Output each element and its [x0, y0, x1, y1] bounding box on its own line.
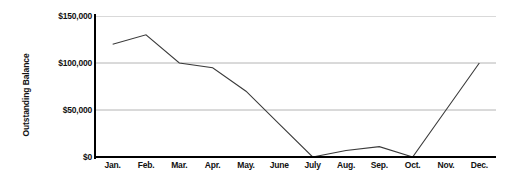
x-tick-label: Oct. — [405, 160, 421, 170]
x-axis-tick-labels: Jan.Feb.Mar.Apr.May.JuneJulyAug.Sep.Oct.… — [96, 160, 496, 182]
y-tick-label-0: $0 — [28, 152, 92, 162]
x-tick-label: Jan. — [105, 160, 121, 170]
y-tick-label-100000: $100,000 — [28, 58, 92, 68]
x-tick-label: May. — [237, 160, 254, 170]
x-tick-label: Mar. — [171, 160, 187, 170]
x-tick-label: Aug. — [337, 160, 355, 170]
x-axis-spine — [94, 156, 496, 158]
y-tick-label-150000: $150,000 — [28, 11, 92, 21]
line-chart: Outstanding Balance $150,000 $100,000 $5… — [0, 0, 516, 190]
data-series-line — [113, 35, 480, 157]
x-tick-label: Dec. — [471, 160, 488, 170]
x-tick-label: Feb. — [138, 160, 155, 170]
x-tick-label: Nov. — [438, 160, 455, 170]
y-axis-tick-labels: $150,000 $100,000 $50,000 $0 — [28, 0, 92, 190]
x-tick-label: July — [305, 160, 321, 170]
x-tick-label: June — [270, 160, 289, 170]
x-tick-label: Apr. — [205, 160, 221, 170]
x-tick-label: Sep. — [371, 160, 388, 170]
y-tick-label-50000: $50,000 — [28, 105, 92, 115]
y-axis-spine — [94, 14, 96, 159]
gridlines — [96, 16, 496, 110]
plot-area — [96, 16, 496, 157]
